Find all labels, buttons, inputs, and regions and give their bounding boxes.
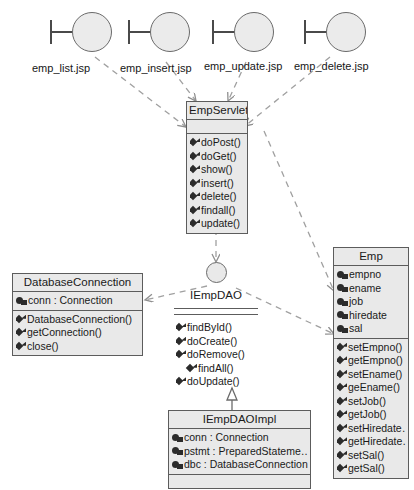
private-attribute-icon xyxy=(337,297,348,307)
label-emp-delete-jsp: emp_delete.jsp xyxy=(294,60,369,72)
public-method-icon xyxy=(190,179,200,188)
class-member: doPost() xyxy=(190,136,245,150)
member-label: findall() xyxy=(201,204,235,218)
interface-member: doCreate() xyxy=(176,335,270,349)
interface-ball-icon xyxy=(206,262,227,283)
member-label: doRemove() xyxy=(187,348,245,362)
class-attributes-emp-servlet xyxy=(187,120,247,134)
class-member: close() xyxy=(16,340,140,354)
interface-ball-icon xyxy=(72,12,112,52)
member-label: sal xyxy=(349,322,362,336)
class-member: conn : Connection xyxy=(16,294,140,308)
lollipop-emp-insert-jsp[interactable] xyxy=(128,10,206,54)
class-title-emp-servlet: EmpServlet xyxy=(187,102,247,120)
private-attribute-icon xyxy=(337,283,348,293)
member-label: DatabaseConnection() xyxy=(27,313,132,327)
public-method-icon xyxy=(337,424,347,433)
class-attributes-iempdao-impl: conn : Connection pstmt : PreparedStatem… xyxy=(169,429,310,475)
member-label: show() xyxy=(201,163,233,177)
class-member: pstmt : PreparedStateme… xyxy=(172,445,308,459)
class-member: findall() xyxy=(190,204,245,218)
public-method-icon xyxy=(16,328,26,337)
member-label: getJob() xyxy=(348,408,387,422)
member-label: setJob() xyxy=(348,395,386,409)
class-member: ename xyxy=(337,282,406,296)
public-method-icon xyxy=(337,464,347,473)
class-methods-emp: setEmpno() getEmpno() setEname() geEname… xyxy=(334,339,408,478)
member-label: hiredate xyxy=(349,309,387,323)
class-member: job xyxy=(337,295,406,309)
member-label: doCreate() xyxy=(187,335,237,349)
member-label: setSal() xyxy=(348,449,384,463)
public-method-icon xyxy=(190,192,200,201)
class-box-emp[interactable]: Emp empno ename job hiredate sal setEmpn… xyxy=(333,247,409,479)
interface-member: findAll() xyxy=(176,362,270,376)
public-method-icon xyxy=(176,377,186,386)
class-box-iempdao-impl[interactable]: IEmpDAOImpl conn : Connection pstmt : Pr… xyxy=(168,410,311,489)
public-method-icon xyxy=(187,364,197,373)
member-label: getEmpno() xyxy=(348,354,403,368)
label-emp-list-jsp: emp_list.jsp xyxy=(32,62,90,74)
class-member: setEmpno() xyxy=(337,341,406,355)
socket-stem-icon xyxy=(305,31,327,33)
socket-stem-icon xyxy=(51,31,73,33)
member-label: setEname() xyxy=(348,368,402,382)
class-attributes-emp: empno ename job hiredate sal xyxy=(334,266,408,339)
public-method-icon xyxy=(337,437,347,446)
interface-member: doRemove() xyxy=(176,348,270,362)
class-member: getHiredate… xyxy=(337,435,406,449)
public-method-icon xyxy=(337,370,347,379)
label-emp-update-jsp: emp_update.jsp xyxy=(204,60,282,72)
member-label: doUpdate() xyxy=(187,375,240,389)
class-member: setEname() xyxy=(337,368,406,382)
member-label: setEmpno() xyxy=(348,341,402,355)
public-method-icon xyxy=(337,451,347,460)
edge-servlet-to-emp xyxy=(264,131,334,291)
class-box-database-connection[interactable]: DatabaseConnection conn : Connection Dat… xyxy=(12,273,143,356)
member-label: pstmt : PreparedStateme… xyxy=(184,445,308,459)
member-label: job xyxy=(349,295,363,309)
class-member: dbc : DatabaseConnection xyxy=(172,458,308,472)
lollipop-emp-list-jsp[interactable] xyxy=(50,10,128,54)
uml-class-diagram: emp_list.jsp emp_insert.jsp emp_update.j… xyxy=(0,0,414,490)
class-member: hiredate xyxy=(337,309,406,323)
member-label: conn : Connection xyxy=(184,431,269,445)
class-member: empno xyxy=(337,268,406,282)
member-label: findAll() xyxy=(198,362,234,376)
member-label: getHiredate… xyxy=(348,435,406,449)
private-attribute-icon xyxy=(172,460,183,470)
public-method-icon xyxy=(337,397,347,406)
member-label: ename xyxy=(349,282,381,296)
member-label: geEname() xyxy=(348,381,400,395)
private-attribute-icon xyxy=(16,296,27,306)
member-label: update() xyxy=(201,217,240,231)
interface-ball-icon xyxy=(234,12,274,52)
lollipop-emp-delete-jsp[interactable] xyxy=(304,10,382,54)
class-member: getJob() xyxy=(337,408,406,422)
class-member: doGet() xyxy=(190,150,245,164)
class-box-emp-servlet[interactable]: EmpServlet doPost() doGet() show() inser… xyxy=(186,101,248,234)
private-attribute-icon xyxy=(337,324,348,334)
lollipop-emp-update-jsp[interactable] xyxy=(212,10,290,54)
class-member: setSal() xyxy=(337,449,406,463)
interface-methods-iempdao: findById() doCreate() doRemove() findAll… xyxy=(162,321,270,389)
interface-ball-icon xyxy=(150,12,190,52)
member-label: getConnection() xyxy=(27,326,102,340)
public-method-icon xyxy=(16,342,26,351)
private-attribute-icon xyxy=(337,270,348,280)
private-attribute-icon xyxy=(337,310,348,320)
public-method-icon xyxy=(337,383,347,392)
public-method-icon xyxy=(190,138,200,147)
class-member: sal xyxy=(337,322,406,336)
class-member: setHiredate… xyxy=(337,422,406,436)
member-label: setHiredate… xyxy=(348,422,406,436)
interface-box-iempdao[interactable]: IEmpDAO findById() doCreate() doRemove()… xyxy=(162,262,270,389)
public-method-icon xyxy=(176,350,186,359)
public-method-icon xyxy=(16,315,26,324)
public-method-icon xyxy=(337,356,347,365)
class-member: delete() xyxy=(190,190,245,204)
class-member: getEmpno() xyxy=(337,354,406,368)
public-method-icon xyxy=(190,206,200,215)
class-member: setJob() xyxy=(337,395,406,409)
class-member: update() xyxy=(190,217,245,231)
